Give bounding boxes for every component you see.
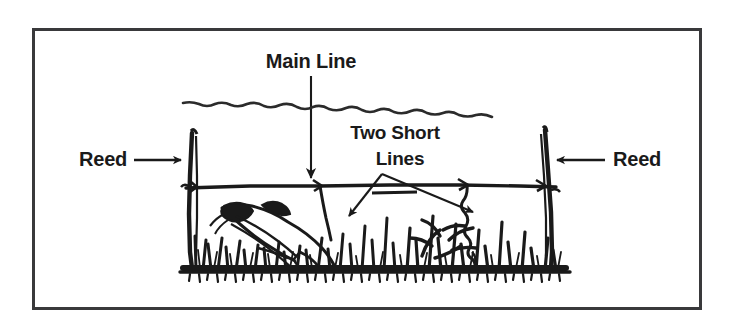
main-line [186, 179, 556, 193]
reed-right-label: Reed [613, 148, 661, 170]
diagram-canvas: Main Line Two Short Lines Reed Reed [0, 0, 730, 331]
reed-left-label: Reed [79, 148, 127, 170]
water-surface-line [183, 102, 492, 117]
short-line-left [320, 186, 331, 240]
two-short-lines-label-line1: Two Short [350, 122, 441, 143]
bottom-vegetation [180, 216, 570, 282]
reed-right [541, 127, 560, 268]
main-line-label: Main Line [266, 50, 357, 72]
fishing-rig-diagram: Main Line Two Short Lines Reed Reed [0, 0, 730, 331]
two-short-lines-callout-arrows [349, 174, 473, 216]
two-short-lines-label-line2: Lines [376, 148, 425, 169]
